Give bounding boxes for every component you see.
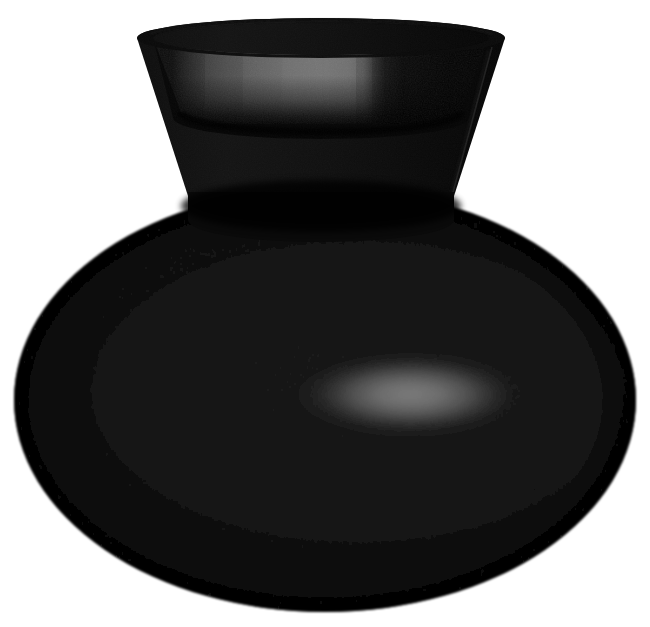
cone-outer-grain bbox=[137, 18, 505, 196]
cone-funnel bbox=[137, 14, 505, 196]
neck-body-junction bbox=[181, 180, 461, 242]
vase-render-svg bbox=[0, 0, 650, 627]
body-grain bbox=[14, 188, 636, 612]
neck-junction-shadow bbox=[181, 180, 461, 232]
render-canvas: 3D rendered vase Dark matte 3D vase: a t… bbox=[0, 0, 650, 627]
